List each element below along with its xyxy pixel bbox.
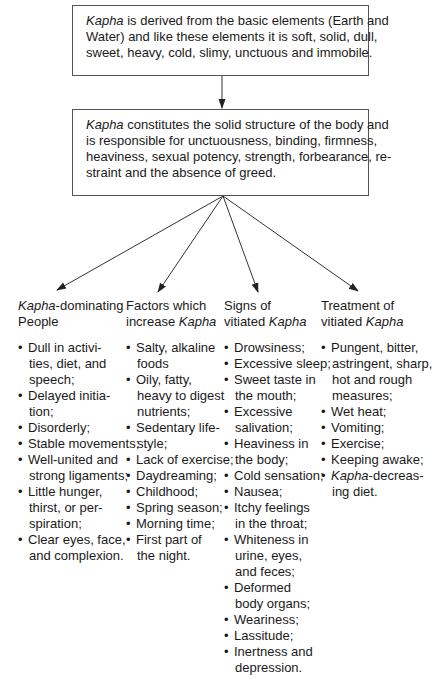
list-item: •Salty, alkalinefoods	[126, 340, 234, 372]
list-item: •Spring season;	[126, 500, 234, 516]
list-item: •Delayed initia-tion;	[18, 388, 139, 420]
list-item: •Exercise;	[321, 436, 432, 452]
bullet-icon: •	[321, 468, 326, 484]
list-item: •Itchy feelingsin the throat;	[224, 500, 331, 532]
bullet-icon: •	[126, 516, 131, 532]
list-item: •Heaviness inthe body;	[224, 436, 331, 468]
bullet-icon: •	[224, 356, 229, 372]
arrow-to-factors	[158, 196, 223, 292]
list-item: •Oily, fatty,heavy to digestnutrients;	[126, 372, 234, 420]
bullet-icon: •	[126, 500, 131, 516]
bullet-list: •Dull in activi-ties, diet, andspeech;•D…	[18, 340, 139, 564]
bullet-icon: •	[224, 372, 229, 388]
bullet-icon: •	[224, 404, 229, 420]
bullet-icon: •	[321, 436, 326, 452]
bullet-icon: •	[18, 452, 23, 468]
arrow-to-signs	[223, 196, 258, 292]
bullet-icon: •	[224, 628, 229, 644]
flow-arrows	[0, 0, 430, 300]
list-item: •Stable movements;	[18, 436, 139, 452]
bullet-icon: •	[126, 372, 131, 388]
bullet-icon: •	[321, 420, 326, 436]
bullet-icon: •	[224, 436, 229, 452]
bullet-list: •Pungent, bitter,astringent, sharp,hot a…	[321, 340, 432, 500]
bullet-icon: •	[18, 420, 23, 436]
list-item: •Nausea;	[224, 484, 331, 500]
arrow-to-people	[57, 196, 223, 290]
list-item: •Cold sensation;	[224, 468, 331, 484]
list-item: •Daydreaming;	[126, 468, 234, 484]
list-item: •Disorderly;	[18, 420, 139, 436]
bullet-icon: •	[224, 484, 229, 500]
list-item: •Little hunger,thirst, or per-spiration;	[18, 484, 139, 532]
list-item: •Excessivesalivation;	[224, 404, 331, 436]
bullet-list: •Drowsiness;•Excessive sleep;•Sweet tast…	[224, 340, 331, 676]
list-item: •Kapha-decreas-ing diet.	[321, 468, 432, 500]
column-heading: Kapha-dominatingPeople	[18, 298, 139, 330]
bullet-icon: •	[224, 644, 229, 660]
list-item: •Dull in activi-ties, diet, andspeech;	[18, 340, 139, 388]
bullet-icon: •	[224, 340, 229, 356]
list-item: •Morning time;	[126, 516, 234, 532]
bullet-icon: •	[321, 340, 326, 356]
list-item: •First part ofthe night.	[126, 532, 234, 564]
list-item: •Sedentary life-style;	[126, 420, 234, 452]
bullet-icon: •	[224, 500, 229, 516]
bullet-icon: •	[18, 484, 23, 500]
list-item: •Keeping awake;	[321, 452, 432, 468]
column-factors-increase-kapha: Factors whichincrease Kapha•Salty, alkal…	[126, 298, 234, 564]
list-item: •Lack of exercise;	[126, 452, 234, 468]
list-item: •Pungent, bitter,astringent, sharp,hot a…	[321, 340, 432, 404]
list-item: •Wet heat;	[321, 404, 432, 420]
bullet-icon: •	[18, 388, 23, 404]
list-item: •Inertness anddepression.	[224, 644, 331, 676]
list-item: •Clear eyes, face,and complexion.	[18, 532, 139, 564]
bullet-icon: •	[18, 436, 23, 452]
bullet-icon: •	[224, 468, 229, 484]
column-signs-vitiated-kapha: Signs ofvitiated Kapha•Drowsiness;•Exces…	[224, 298, 331, 676]
bullet-icon: •	[126, 468, 131, 484]
column-treatment-vitiated-kapha: Treatment ofvitiated Kapha•Pungent, bitt…	[321, 298, 432, 500]
list-item: •Sweet taste inthe mouth;	[224, 372, 331, 404]
list-item: •Childhood;	[126, 484, 234, 500]
list-item: •Deformedbody organs;	[224, 580, 331, 612]
bullet-icon: •	[321, 404, 326, 420]
column-heading: Treatment ofvitiated Kapha	[321, 298, 432, 330]
bullet-icon: •	[126, 340, 131, 356]
bullet-icon: •	[18, 532, 23, 548]
bullet-icon: •	[224, 612, 229, 628]
bullet-icon: •	[321, 452, 326, 468]
bullet-icon: •	[126, 484, 131, 500]
list-item: •Drowsiness;	[224, 340, 331, 356]
arrow-to-treatment	[223, 196, 358, 291]
bullet-icon: •	[126, 420, 131, 436]
bullet-icon: •	[126, 532, 131, 548]
list-item: •Weariness;	[224, 612, 331, 628]
bullet-icon: •	[224, 532, 229, 548]
bullet-icon: •	[224, 580, 229, 596]
list-item: •Well-united andstrong ligaments;	[18, 452, 139, 484]
column-kapha-dominating-people: Kapha-dominatingPeople•Dull in activi-ti…	[18, 298, 139, 564]
column-heading: Signs ofvitiated Kapha	[224, 298, 331, 330]
list-item: •Whiteness inurine, eyes,and feces;	[224, 532, 331, 580]
list-item: •Lassitude;	[224, 628, 331, 644]
bullet-icon: •	[18, 340, 23, 356]
bullet-icon: •	[126, 452, 131, 468]
list-item: •Excessive sleep;	[224, 356, 331, 372]
column-heading: Factors whichincrease Kapha	[126, 298, 234, 330]
bullet-list: •Salty, alkalinefoods•Oily, fatty,heavy …	[126, 340, 234, 564]
list-item: •Vomiting;	[321, 420, 432, 436]
